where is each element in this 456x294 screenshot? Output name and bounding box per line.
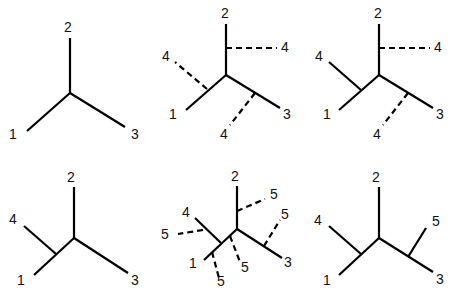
tree-branch <box>329 62 361 90</box>
tree-branch <box>70 93 125 127</box>
taxon-label: 1 <box>323 106 331 122</box>
tree-panel-p1: 213 <box>9 19 139 142</box>
tree-panel-p6: 24513 <box>314 169 444 288</box>
taxon-label: 2 <box>221 5 229 21</box>
tree-panel-p4: 2413 <box>9 169 139 288</box>
tree-branch <box>237 229 282 258</box>
taxon-label: 3 <box>283 106 291 122</box>
candidate-branch <box>237 199 265 211</box>
taxon-label: 5 <box>161 226 169 242</box>
tree-branch <box>329 226 361 254</box>
taxon-label: 4 <box>315 48 323 64</box>
tree-branch <box>27 93 70 131</box>
taxon-label: 4 <box>220 126 228 142</box>
taxon-label: 3 <box>131 126 139 142</box>
taxon-label: 4 <box>182 204 190 220</box>
taxon-label: 3 <box>131 272 139 288</box>
taxon-label: 4 <box>373 126 381 142</box>
candidate-branch <box>383 93 408 125</box>
taxon-label: 2 <box>372 169 380 185</box>
taxon-label: 4 <box>9 211 17 227</box>
candidate-branch <box>230 93 255 125</box>
taxon-label: 2 <box>374 5 382 21</box>
candidate-branch <box>175 62 207 89</box>
candidate-branch <box>230 236 240 262</box>
candidate-branch <box>264 220 280 246</box>
taxon-label: 5 <box>217 273 225 289</box>
taxon-label: 4 <box>162 48 170 64</box>
tree-branch <box>226 75 280 108</box>
taxon-label: 3 <box>284 254 292 270</box>
taxon-label: 1 <box>169 106 177 122</box>
taxon-label: 1 <box>17 272 25 288</box>
tree-branch <box>339 238 379 275</box>
taxon-label: 5 <box>281 206 289 222</box>
candidate-branch <box>178 230 203 234</box>
taxon-label: 4 <box>281 39 289 55</box>
taxon-label: 2 <box>67 169 75 185</box>
taxon-label: 5 <box>270 186 278 202</box>
tree-diagram: 213244134244134241325545155324513 <box>0 0 456 294</box>
tree-branch <box>408 228 426 257</box>
taxon-label: 1 <box>9 126 17 142</box>
tree-branch <box>34 238 74 275</box>
tree-branch <box>186 75 226 110</box>
tree-branch <box>379 75 433 108</box>
tree-branch <box>339 75 379 110</box>
taxon-label: 1 <box>189 255 197 271</box>
tree-branch <box>204 229 237 260</box>
tree-panel-p2: 244134 <box>162 5 291 142</box>
taxon-label: 2 <box>231 168 239 184</box>
taxon-label: 4 <box>434 39 442 55</box>
taxon-label: 4 <box>314 212 322 228</box>
taxon-label: 3 <box>436 271 444 287</box>
tree-panel-p3: 244134 <box>315 5 444 142</box>
taxon-label: 5 <box>432 213 440 229</box>
tree-branch <box>379 238 433 272</box>
taxon-label: 1 <box>323 272 331 288</box>
tree-branch <box>24 226 56 254</box>
taxon-label: 5 <box>241 259 249 275</box>
taxon-label: 3 <box>436 106 444 122</box>
tree-branch <box>74 238 128 273</box>
tree-panel-p5: 255451553 <box>161 168 292 289</box>
taxon-label: 2 <box>64 19 72 35</box>
